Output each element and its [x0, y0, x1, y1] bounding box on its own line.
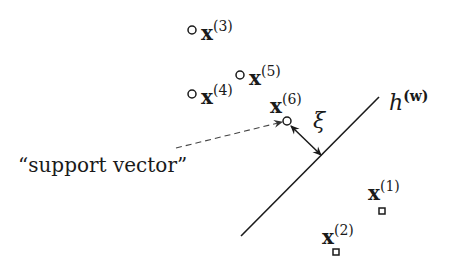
data-point-p2: x(2): [322, 222, 354, 255]
support-vector-pointer: [176, 122, 282, 148]
point-label: x(5): [249, 63, 281, 90]
point-label: x(2): [322, 222, 354, 249]
data-point-p5: x(5): [236, 63, 281, 90]
data-point-p4: x(4): [188, 82, 233, 109]
point-label: x(6): [270, 91, 302, 118]
circle-marker-icon: [283, 117, 291, 125]
data-point-p6: x(6): [270, 91, 302, 125]
margin-xi-label: ξ: [313, 108, 327, 133]
data-points: x(1)x(2)x(3)x(4)x(5)x(6): [188, 18, 400, 255]
point-label: x(4): [201, 82, 233, 109]
circle-marker-icon: [236, 71, 244, 79]
circle-marker-icon: [188, 90, 196, 98]
square-marker-icon: [333, 249, 339, 255]
support-vector-annotation: “support vector”: [18, 153, 187, 177]
svm-diagram: h(w) ξ “support vector” x(1)x(2)x(3)x(4)…: [0, 0, 453, 270]
point-label: x(1): [368, 178, 400, 205]
point-label: x(3): [201, 18, 233, 45]
hyperplane-line: [241, 97, 379, 236]
data-point-p1: x(1): [368, 178, 400, 214]
hyperplane-label: h(w): [389, 88, 428, 115]
diagram-svg: h(w) ξ “support vector” x(1)x(2)x(3)x(4)…: [0, 0, 453, 270]
data-point-p3: x(3): [188, 18, 233, 45]
square-marker-icon: [379, 208, 385, 214]
circle-marker-icon: [188, 26, 196, 34]
